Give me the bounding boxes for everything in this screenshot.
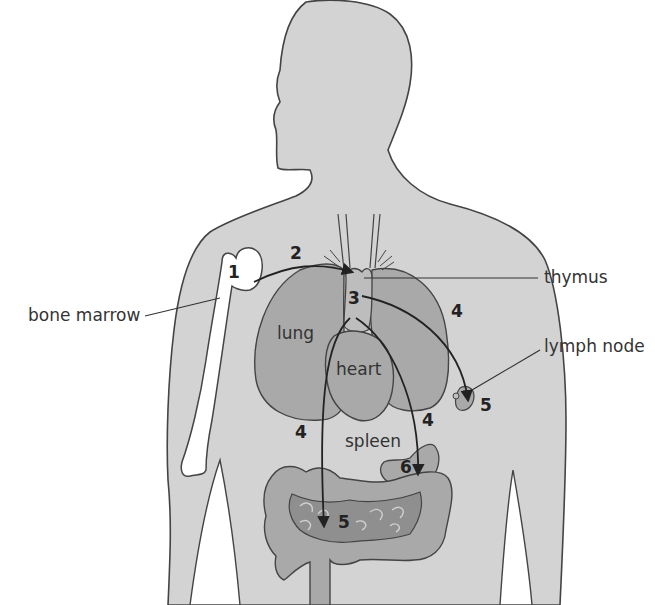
step-3: 3: [348, 290, 360, 307]
label-bone-marrow: bone marrow: [28, 307, 140, 324]
step-5-intestine: 5: [338, 514, 350, 531]
step-4-abdomen: 4: [295, 424, 307, 441]
label-lung: lung: [277, 325, 314, 342]
step-5-lymph-node: 5: [480, 397, 492, 414]
label-heart: heart: [336, 361, 381, 378]
step-6-spleen: 6: [400, 459, 412, 476]
step-1: 1: [228, 264, 240, 281]
label-spleen: spleen: [345, 433, 401, 450]
label-thymus: thymus: [544, 269, 608, 286]
step-4-spleen: 4: [422, 412, 434, 429]
step-4-chest: 4: [451, 303, 463, 320]
label-lymph-node: lymph node: [544, 338, 645, 355]
step-2: 2: [290, 245, 302, 262]
body-illustration: [0, 0, 655, 605]
